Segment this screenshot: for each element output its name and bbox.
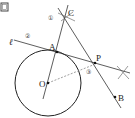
label-o: O [39,79,46,89]
line-cb [58,8,121,108]
step-label-1: ① [48,15,53,21]
point-b [114,96,117,99]
label-b: B [118,93,124,103]
tangent-line-l [14,40,130,73]
step-label-3: ③ [86,69,91,75]
label-p: P [96,53,101,63]
point-o [47,82,50,85]
label-line-l: ℓ [9,37,13,47]
label-c: C [68,8,74,18]
figure-box-icon [1,3,8,11]
step-label-2: ② [25,33,30,39]
label-a: A [49,42,56,52]
point-a [56,51,59,54]
geometry-diagram: C A P O B ℓ ① ② ③ [0,0,135,118]
